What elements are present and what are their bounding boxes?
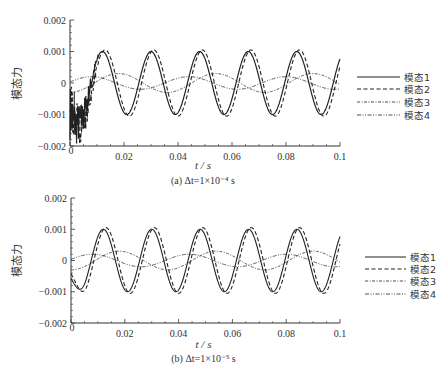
series-line-mode-3 (71, 251, 340, 270)
panel-caption: (a) Δt=1×10⁻⁴ s (171, 175, 235, 187)
x-tick-label: 0.02 (116, 328, 134, 339)
axes: 0.0020.0010−0.001−0.00200.020.040.060.08… (38, 15, 346, 163)
x-tick-label: 0.06 (224, 328, 242, 339)
series-line-mode-2 (70, 50, 340, 143)
x-tick-label: 0.1 (334, 151, 347, 162)
x-tick-label: 0.1 (334, 328, 347, 339)
figure: 0.0020.0010−0.001−0.00200.020.040.060.08… (0, 0, 447, 374)
y-tick-label: −0.002 (38, 141, 66, 152)
x-axis-label: t / s (195, 159, 211, 171)
chart-panel-a: 0.0020.0010−0.001−0.00200.020.040.060.08… (11, 15, 430, 188)
y-tick-label: 0 (61, 78, 66, 89)
chart-panel-b: 0.0020.0010−0.001−0.00200.020.040.060.08… (11, 193, 436, 366)
legend-label: 模态2 (410, 264, 436, 275)
legend-label: 模态3 (410, 276, 436, 287)
series-line-mode-4 (71, 254, 340, 267)
x-tick-label: 0.06 (223, 151, 241, 162)
x-tick-label: 0.04 (169, 151, 187, 162)
y-tick-label: 0.002 (44, 15, 67, 26)
x-tick-label: 0 (70, 322, 75, 333)
y-tick-label: −0.002 (39, 318, 67, 329)
panel-caption: (b) Δt=1×10⁻⁵ s (171, 353, 236, 365)
series-line-mode-1 (70, 52, 340, 144)
legend: 模态1模态2模态3模态4 (365, 252, 436, 300)
series-lines (70, 50, 340, 143)
legend-label: 模态3 (404, 97, 430, 108)
series-line-mode-1 (71, 229, 340, 292)
y-tick-label: 0.001 (45, 224, 68, 235)
x-tick-label: 0.08 (277, 151, 295, 162)
x-tick-label: 0.02 (115, 151, 133, 162)
legend-label: 模态1 (404, 72, 430, 83)
y-axis-label: 模态力 (11, 67, 23, 100)
legend-label: 模态4 (410, 289, 436, 300)
series-lines (71, 228, 340, 294)
x-tick-label: 0.08 (277, 328, 295, 339)
legend-label: 模态4 (404, 110, 430, 121)
legend-label: 模态1 (410, 252, 436, 263)
axes: 0.0020.0010−0.001−0.00200.020.040.060.08… (39, 193, 346, 340)
y-tick-label: −0.001 (38, 109, 66, 120)
series-line-mode-4 (70, 77, 340, 90)
y-axis-label: 模态力 (11, 244, 23, 277)
x-tick-label: 0 (69, 145, 74, 156)
series-line-mode-3 (70, 74, 340, 93)
y-tick-label: 0.001 (44, 46, 67, 57)
y-tick-label: 0.002 (45, 193, 68, 204)
x-axis-label: t / s (196, 338, 212, 350)
legend: 模态1模态2模态3模态4 (357, 72, 430, 121)
legend-label: 模态2 (404, 84, 430, 95)
y-tick-label: 0 (62, 255, 67, 266)
y-tick-label: −0.001 (39, 286, 67, 297)
x-tick-label: 0.04 (170, 328, 188, 339)
